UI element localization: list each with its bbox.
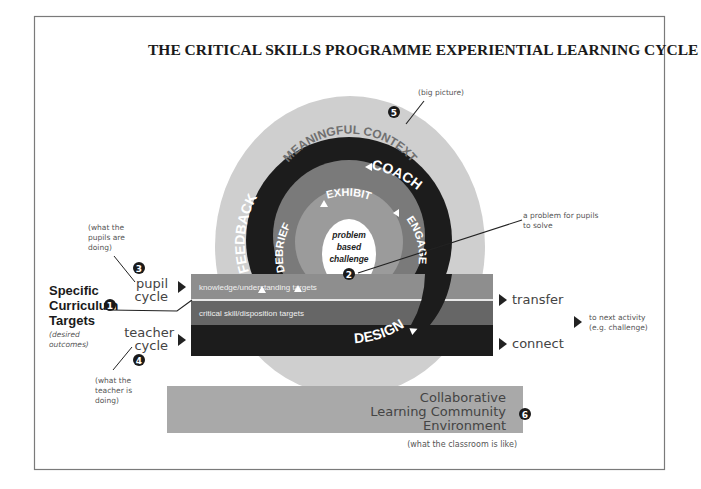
marker-4: 4 — [136, 356, 142, 366]
teacher-note-3: doing) — [95, 396, 119, 405]
targets-note-1: (desired — [49, 330, 80, 339]
pupil-cycle-line-2: cycle — [134, 289, 168, 304]
center-line-1: problem — [331, 230, 366, 240]
pupil-cycle-arrow-icon — [178, 281, 186, 293]
skill-targets-label: critical skill/disposition targets — [199, 309, 304, 318]
center-line-2: based — [337, 242, 362, 252]
connect-label: connect — [512, 336, 564, 351]
next-activity-line-2: (e.g. challenge) — [589, 323, 648, 332]
targets-line-3: Targets — [49, 313, 95, 328]
transfer-arrow-icon — [499, 294, 507, 306]
community-line-1: Collaborative — [420, 390, 506, 405]
center-line-3: challenge — [329, 254, 368, 264]
next-activity-arrow-icon — [574, 316, 582, 328]
challenge-note-2: to solve — [523, 221, 553, 230]
connect-arrow-icon — [499, 338, 507, 350]
teacher-note-2: teacher is — [95, 386, 132, 395]
next-activity-line-1: to next activity — [589, 313, 646, 322]
teacher-note-1: (what the — [95, 376, 131, 385]
challenge-note-1: a problem for pupils — [523, 211, 599, 220]
community-note: (what the classroom is like) — [407, 440, 517, 449]
marker-5: 5 — [391, 108, 397, 118]
diagram-title: THE CRITICAL SKILLS PROGRAMME EXPERIENTI… — [148, 41, 698, 58]
marker-3: 3 — [136, 264, 142, 274]
marker-2: 2 — [346, 270, 352, 280]
transfer-label: transfer — [512, 292, 564, 307]
teacher-leader-line — [113, 347, 132, 370]
teacher-cycle-bar — [191, 325, 493, 356]
teacher-cycle-line-2: cycle — [134, 338, 168, 353]
pupil-note-1: (what the — [88, 223, 124, 232]
marker-6: 6 — [522, 410, 528, 420]
community-line-2: Learning Community — [370, 404, 506, 419]
pupil-note-3: doing) — [88, 243, 112, 252]
teacher-cycle-arrow-icon — [178, 334, 186, 346]
pupil-leader-line — [114, 256, 135, 282]
pupil-note-2: pupils are — [88, 233, 125, 242]
context-note: (big picture) — [418, 88, 464, 97]
bar-divider — [191, 299, 493, 301]
targets-note-2: outcomes) — [49, 340, 89, 349]
marker-1: 1 — [107, 301, 113, 311]
targets-line-1: Specific — [49, 283, 99, 298]
community-line-3: Environment — [423, 418, 506, 433]
learning-cycle-diagram: THE CRITICAL SKILLS PROGRAMME EXPERIENTI… — [0, 0, 701, 489]
